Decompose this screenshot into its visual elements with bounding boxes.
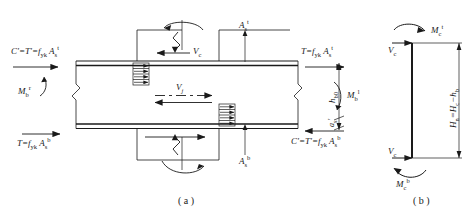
bond-stress-block-top: [133, 63, 149, 85]
leader-line-rebar-top: [243, 30, 248, 62]
label-moment-bottom-panel-b: Mcb: [396, 177, 410, 191]
label-shear-bottom-panel-b: Vc: [388, 146, 396, 158]
bottom-column-axial-arrow: [172, 134, 182, 170]
label-height-hn: Hn=Hc−hb: [448, 89, 460, 128]
label-force-top-left: C'=T'=fyk Ast: [11, 44, 59, 58]
bottom-column-moment-arrow: [162, 161, 204, 173]
label-cover-as: as': [327, 119, 338, 127]
left-column-face: [72, 61, 80, 129]
label-force-top-right: T=fyk Ast: [301, 44, 333, 58]
label-shear-top-vc: Vc: [193, 46, 201, 58]
panel-b-caption: ( b ): [413, 195, 430, 206]
lower-beam-group: [76, 124, 298, 129]
label-moment-left: Mbr: [18, 84, 31, 98]
moment-arrow-left: [40, 77, 47, 96]
label-depth-hb0: hb0: [327, 92, 339, 103]
upper-column-stub: [137, 30, 290, 61]
label-moment-top-panel-b: Mct: [431, 23, 443, 37]
moment-arrow-bottom-panel-b: [394, 168, 426, 177]
right-column-face: [294, 61, 302, 129]
label-rebar-top: Ast: [239, 18, 249, 32]
bond-stress-block-bottom: [219, 104, 235, 126]
label-joint-shear-vj: Vj: [176, 82, 183, 94]
label-moment-right: Mbl: [347, 88, 360, 102]
label-rebar-bottom: Asb: [239, 154, 250, 168]
label-force-bottom-right: C'=T'=fyk Asb: [291, 134, 340, 148]
moment-arrow-top-panel-b: [394, 24, 425, 33]
upper-beam-group: [76, 61, 298, 66]
figure-canvas: C'=T'=fyk Ast T=fyk Asb T=fyk Ast C'=T'=…: [0, 0, 475, 223]
top-column-axial-arrow: [172, 20, 182, 53]
top-column-moment-arrow: [164, 22, 203, 31]
joint-shear-arrows-vj: [155, 96, 212, 103]
panel-a-caption: ( a ): [178, 195, 194, 206]
label-force-bottom-left: T=fyk Asb: [17, 136, 50, 150]
leader-line-rebar-bottom: [243, 124, 248, 155]
label-shear-top-panel-b: Vc: [388, 45, 396, 57]
